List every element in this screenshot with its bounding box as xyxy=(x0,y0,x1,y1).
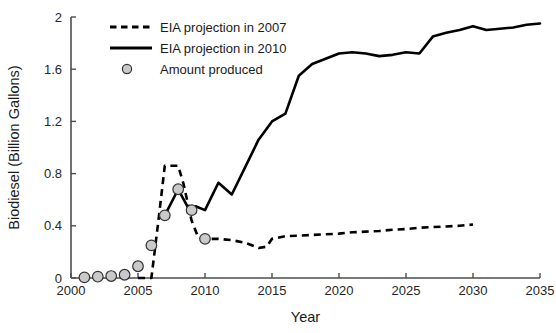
data-point-marker xyxy=(146,240,157,251)
legend-label: Amount produced xyxy=(160,62,263,77)
data-point-marker xyxy=(106,271,117,282)
y-axis-title: Biodiesel (Billion Gallons) xyxy=(6,65,22,229)
x-tick-label: 2020 xyxy=(325,283,354,298)
data-point-marker xyxy=(93,271,104,282)
x-tick-label: 2005 xyxy=(124,283,153,298)
x-axis-title: Year xyxy=(291,309,320,325)
chart-legend: EIA projection in 2007EIA projection in … xyxy=(110,20,286,77)
legend-label: EIA projection in 2007 xyxy=(160,20,286,35)
chart-axes xyxy=(71,17,540,278)
data-point-marker xyxy=(119,269,130,280)
x-tick-label: 2025 xyxy=(392,283,421,298)
y-tick-label: 0 xyxy=(55,271,62,286)
x-axis-ticks: 20002005201020152020202520302035 xyxy=(57,273,555,298)
y-tick-label: 0.8 xyxy=(44,166,62,181)
data-point-marker xyxy=(173,184,184,195)
legend-label: EIA projection in 2010 xyxy=(160,41,286,56)
data-point-marker xyxy=(160,210,171,221)
x-tick-label: 2030 xyxy=(459,283,488,298)
y-tick-label: 1.2 xyxy=(44,114,62,129)
legend-swatch-marker-icon xyxy=(122,64,131,73)
series-line-dashed xyxy=(138,166,473,278)
y-tick-label: 2 xyxy=(55,10,62,25)
x-tick-label: 2010 xyxy=(191,283,220,298)
data-point-marker xyxy=(79,272,90,283)
y-tick-label: 0.4 xyxy=(44,218,62,233)
data-point-markers xyxy=(79,184,210,283)
data-point-marker xyxy=(133,261,144,272)
x-tick-label: 2035 xyxy=(526,283,555,298)
data-point-marker xyxy=(200,234,211,245)
x-tick-label: 2015 xyxy=(258,283,287,298)
chart-canvas: 20002005201020152020202520302035 00.40.8… xyxy=(0,0,556,333)
y-tick-label: 1.6 xyxy=(44,62,62,77)
data-point-marker xyxy=(186,205,197,216)
biodiesel-projection-chart: 20002005201020152020202520302035 00.40.8… xyxy=(0,0,556,333)
